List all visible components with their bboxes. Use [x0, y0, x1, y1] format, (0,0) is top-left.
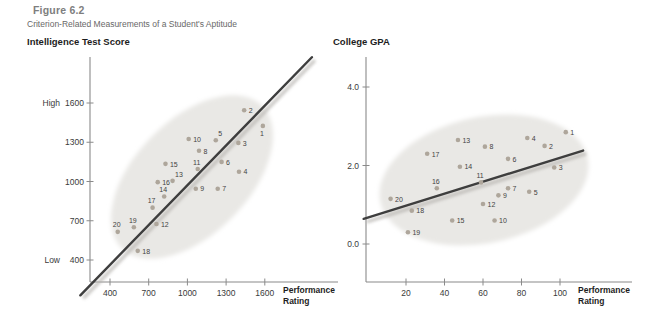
data-point [388, 197, 393, 202]
data-point [527, 189, 532, 194]
x-tick-label: 100 [553, 288, 567, 298]
y-tick-label: 400 [70, 255, 84, 265]
point-label: 20 [113, 221, 121, 228]
y-tick-label: 700 [70, 216, 84, 226]
data-point [242, 108, 247, 113]
point-label: 20 [395, 196, 403, 203]
point-label: 16 [162, 179, 170, 186]
point-label: 2 [549, 143, 553, 150]
point-label: 13 [462, 137, 470, 144]
data-point [506, 186, 511, 191]
data-point [162, 194, 167, 199]
x-axis-label: Performance Rating [283, 285, 343, 307]
correlation-envelope [367, 96, 601, 263]
data-point [479, 180, 484, 185]
x-axis-label: Performance Rating [578, 285, 638, 307]
point-label: 14 [159, 186, 167, 193]
data-point [525, 136, 530, 141]
y-tick-label: 1300 [65, 137, 84, 147]
data-point [135, 249, 140, 254]
x-tick-label: 20 [401, 288, 411, 298]
data-point [406, 230, 411, 235]
point-label: 13 [175, 171, 183, 178]
point-label: 11 [476, 172, 483, 179]
point-label: 15 [170, 161, 178, 168]
data-point [409, 208, 414, 213]
point-label: 19 [412, 229, 420, 236]
data-point [195, 167, 200, 172]
point-label: 19 [129, 217, 137, 224]
data-point [155, 180, 160, 185]
data-point [506, 157, 511, 162]
data-point [237, 169, 242, 174]
data-point [215, 186, 220, 191]
x-tick-label: 40 [440, 288, 450, 298]
x-tick-label: 700 [142, 288, 156, 298]
x-tick-label: 400 [103, 288, 117, 298]
data-point [213, 138, 218, 143]
figure-page: Figure 6.2 Criterion-Related Measurement… [0, 0, 667, 328]
point-label: 6 [513, 156, 517, 163]
point-label: 17 [148, 197, 156, 204]
point-label: 18 [142, 248, 150, 255]
point-label: 3 [559, 164, 563, 171]
point-label: 8 [204, 148, 208, 155]
point-label: 9 [200, 185, 204, 192]
point-label: 11 [193, 159, 200, 166]
data-point [542, 144, 547, 149]
point-label: 16 [432, 178, 440, 185]
data-point [193, 186, 198, 191]
y-tick-label: 1600 [65, 98, 84, 108]
point-label: 5 [534, 189, 538, 196]
x-tick-label: 80 [517, 288, 527, 298]
data-point [483, 144, 488, 149]
data-point [450, 218, 455, 223]
left-chart: 400700100013001600400700100013001600High… [43, 57, 338, 298]
trend-line [80, 57, 312, 295]
data-point [492, 218, 497, 223]
scatter-plots-canvas: 400700100013001600400700100013001600High… [0, 0, 667, 328]
point-label: 7 [513, 185, 517, 192]
point-label: 9 [503, 192, 507, 199]
data-point [563, 130, 568, 135]
point-label: 15 [457, 217, 465, 224]
point-label: 7 [222, 185, 226, 192]
point-label: 2 [249, 107, 253, 114]
point-label: 17 [432, 151, 440, 158]
data-point [236, 141, 241, 146]
x-tick-label: 60 [478, 288, 488, 298]
data-point [132, 225, 137, 230]
y-axis-annotation: Low [44, 255, 60, 265]
data-point [496, 193, 501, 198]
data-point [170, 179, 175, 184]
data-point [435, 186, 440, 191]
point-label: 8 [489, 143, 493, 150]
y-tick-label: 1000 [65, 177, 84, 187]
y-tick-label: 2.0 [347, 161, 359, 171]
point-label: 12 [488, 201, 496, 208]
point-label: 6 [226, 159, 230, 166]
data-point [115, 230, 120, 235]
x-tick-label: 1300 [217, 288, 236, 298]
data-point [219, 160, 224, 165]
point-label: 1 [570, 129, 574, 136]
point-label: 4 [244, 168, 248, 175]
data-point [197, 148, 202, 153]
y-tick-label: 4.0 [347, 82, 359, 92]
point-label: 10 [499, 217, 507, 224]
point-label: 3 [243, 140, 247, 147]
y-tick-label: 0.0 [347, 239, 359, 249]
data-point [154, 222, 159, 227]
data-point [456, 138, 461, 143]
data-point [552, 165, 557, 170]
point-label: 12 [161, 221, 169, 228]
point-label: 14 [464, 163, 472, 170]
x-tick-label: 1600 [255, 288, 274, 298]
x-tick-label: 1000 [178, 288, 197, 298]
y-axis-annotation: High [43, 98, 61, 108]
point-label: 4 [532, 135, 536, 142]
data-point [261, 124, 266, 129]
data-point [186, 137, 191, 142]
point-label: 5 [218, 130, 222, 137]
data-point [458, 164, 463, 169]
